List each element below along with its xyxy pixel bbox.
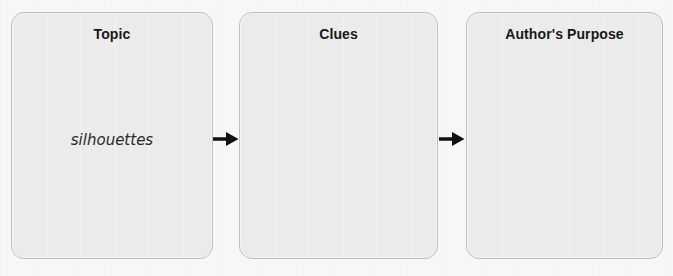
organizer-box-clues[interactable]: Clues: [239, 12, 438, 259]
box-answer-topic[interactable]: silhouettes: [12, 131, 212, 149]
arrow-right-icon: [213, 129, 239, 149]
box-heading-clues: Clues: [240, 26, 437, 42]
box-heading-authors-purpose: Author's Purpose: [467, 26, 662, 42]
organizer-box-topic[interactable]: Topic silhouettes: [11, 12, 213, 259]
graphic-organizer: Topic silhouettes Clues Author's Purpose: [0, 0, 673, 276]
arrow-right-icon: [439, 129, 465, 149]
box-heading-topic: Topic: [12, 26, 212, 42]
organizer-box-authors-purpose[interactable]: Author's Purpose: [466, 12, 663, 259]
